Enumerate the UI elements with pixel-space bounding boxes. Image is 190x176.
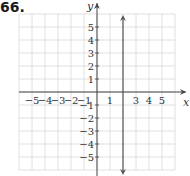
plotted-line xyxy=(120,15,126,175)
y-tick-label: 2 xyxy=(88,61,94,72)
y-tick-label: 1 xyxy=(88,74,94,85)
y-tick-label: −3 xyxy=(79,126,94,137)
y-tick-label: −5 xyxy=(79,152,94,163)
y-tick-label: 4 xyxy=(88,35,94,46)
x-axis-label: x xyxy=(183,96,190,109)
y-tick-label: −1 xyxy=(79,100,94,111)
y-tick-label: 5 xyxy=(88,22,94,33)
x-tick-label: 4 xyxy=(146,95,152,106)
x-tick-label: 1 xyxy=(107,95,113,106)
x-tick-label: 3 xyxy=(133,95,139,106)
coordinate-plane: xy −5−4−3−2−1134554321−1−2−3−4−5 xyxy=(0,0,190,176)
y-tick-label: −2 xyxy=(79,113,94,124)
x-tick-label: 5 xyxy=(159,95,165,106)
y-tick-label: −4 xyxy=(79,139,94,150)
y-axis-label: y xyxy=(86,0,94,13)
y-tick-label: 3 xyxy=(88,48,94,59)
